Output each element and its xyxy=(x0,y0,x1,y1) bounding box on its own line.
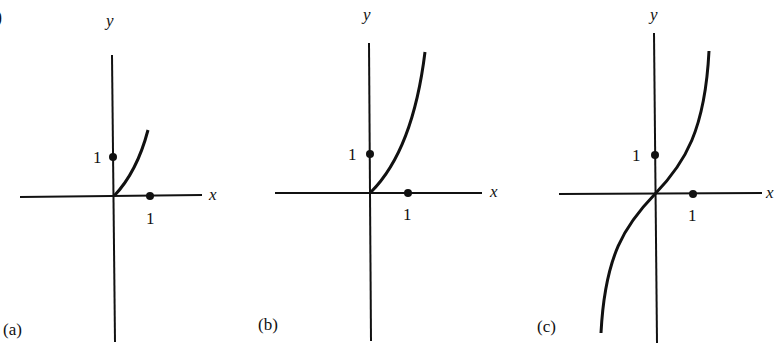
panel-b-y-tick-dot xyxy=(366,150,374,158)
panel-a-x-label: x xyxy=(209,186,217,203)
panel-c-y-tick-label: 1 xyxy=(632,147,641,164)
figure-canvas xyxy=(0,0,779,351)
panel-c-x-tick-label: 1 xyxy=(688,207,697,224)
panel-b-y-label: y xyxy=(363,6,371,23)
panel-b-curve xyxy=(371,52,425,192)
panel-b-x-tick-label: 1 xyxy=(403,206,412,223)
panel-a-curve xyxy=(114,130,148,196)
panel-c-y-axis xyxy=(654,33,657,343)
panel-a-caption: (a) xyxy=(3,321,22,338)
corner-fragment: ) xyxy=(0,8,2,26)
panel-c-x-tick-dot xyxy=(689,190,697,198)
panel-a-x-axis xyxy=(20,195,202,197)
panel-a-y-tick-label: 1 xyxy=(93,149,102,166)
panel-b-x-label: x xyxy=(490,183,498,200)
panel-b-x-tick-dot xyxy=(404,189,412,197)
panel-a-y-tick-dot xyxy=(109,153,117,161)
panel-c-y-label: y xyxy=(650,6,658,23)
panel-c-caption: (c) xyxy=(537,318,556,335)
panel-a-x-tick-dot xyxy=(146,192,154,200)
panel-a-y-axis xyxy=(112,55,115,342)
panel-b-caption: (b) xyxy=(258,316,278,333)
panel-c-y-tick-dot xyxy=(651,151,659,159)
panel-b-y-tick-label: 1 xyxy=(348,146,357,163)
panel-c-x-label: x xyxy=(766,184,774,201)
panel-a-x-tick-label: 1 xyxy=(146,210,155,227)
panel-c-x-axis xyxy=(559,193,762,194)
panel-a-y-label: y xyxy=(106,12,114,29)
